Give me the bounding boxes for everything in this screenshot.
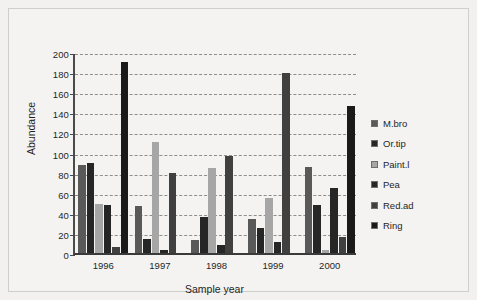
bar-or-tip-1996[interactable] [87,163,95,253]
legend-swatch-icon [371,120,378,127]
x-tick-label: 1998 [188,260,245,271]
x-tick-label: 1999 [245,260,302,271]
y-tick-label: 140 [53,109,69,120]
legend-item-pea[interactable]: Pea [371,175,463,196]
bar-m-bro-1998[interactable] [191,240,199,253]
bar-m-bro-1999[interactable] [248,219,256,253]
y-tick-label: 100 [53,149,69,160]
bar-paint-l-1999[interactable] [265,198,273,253]
y-tick-label: 40 [58,209,69,220]
legend-swatch-icon [371,181,378,188]
bar-pea-1996[interactable] [104,205,112,253]
legend-item-paint-l[interactable]: Paint.l [371,154,463,175]
bar-m-bro-2000[interactable] [305,167,313,253]
bar-group: 1998 [188,54,245,253]
y-tick [70,255,75,256]
bar-red-ad-2000[interactable] [339,237,347,253]
legend-item-ring[interactable]: Ring [371,216,463,237]
y-tick-label: 0 [64,250,69,261]
bar-paint-l-2000[interactable] [322,250,330,253]
legend-label: M.bro [383,118,407,129]
bar-ring-2000[interactable] [347,106,355,253]
y-tick-label: 80 [58,169,69,180]
legend-label: Red.ad [383,200,414,211]
x-tick-label: 1997 [132,260,189,271]
legend-label: Or.tip [383,138,406,149]
bar-group: 1996 [75,54,132,253]
y-tick-label: 20 [58,229,69,240]
bar-or-tip-1999[interactable] [257,228,265,253]
x-tick-label: 1996 [75,260,132,271]
bar-pea-1999[interactable] [274,242,282,253]
bar-red-ad-1997[interactable] [169,173,177,253]
chart-legend: M.broOr.tipPaint.lPeaRed.adRing [371,113,463,236]
bar-paint-l-1997[interactable] [152,142,160,253]
bar-red-ad-1999[interactable] [282,73,290,253]
legend-label: Pea [383,179,400,190]
legend-item-m-bro[interactable]: M.bro [371,113,463,134]
bar-ring-1996[interactable] [121,62,129,253]
legend-item-or-tip[interactable]: Or.tip [371,134,463,155]
bar-or-tip-2000[interactable] [313,205,321,253]
x-tick-label: 2000 [301,260,358,271]
legend-swatch-icon [371,202,378,209]
bar-paint-l-1998[interactable] [208,168,216,253]
screenshot-root: Abundance 020406080100120140160180200 19… [0,0,477,300]
bar-group: 2000 [301,54,358,253]
bar-group: 1997 [132,54,189,253]
chart-card: Abundance 020406080100120140160180200 19… [8,8,469,292]
bar-pea-2000[interactable] [330,188,338,253]
legend-swatch-icon [371,140,378,147]
bar-red-ad-1996[interactable] [112,247,120,253]
y-axis-title: Abundance [25,102,37,155]
y-tick-label: 120 [53,129,69,140]
bar-m-bro-1996[interactable] [78,165,86,253]
legend-item-red-ad[interactable]: Red.ad [371,195,463,216]
bar-red-ad-1998[interactable] [225,156,233,253]
x-axis-title: Sample year [73,283,356,295]
bar-paint-l-1996[interactable] [95,204,103,253]
y-tick-label: 160 [53,89,69,100]
plot-area: 020406080100120140160180200 199619971998… [73,54,356,255]
bar-pea-1998[interactable] [217,245,225,253]
bar-or-tip-1998[interactable] [200,217,208,253]
y-tick-label: 60 [58,189,69,200]
y-tick-label: 200 [53,49,69,60]
bar-or-tip-1997[interactable] [143,239,151,253]
y-tick-label: 180 [53,69,69,80]
legend-swatch-icon [371,161,378,168]
legend-label: Ring [383,220,403,231]
bar-group: 1999 [245,54,302,253]
bar-pea-1997[interactable] [160,250,168,253]
bar-m-bro-1997[interactable] [135,206,143,253]
legend-swatch-icon [371,222,378,229]
legend-label: Paint.l [383,159,409,170]
